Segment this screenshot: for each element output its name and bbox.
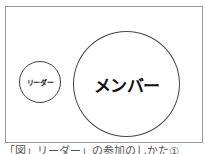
figure-caption: 「図」リーダー」の参加のしかた① xyxy=(4,146,179,154)
leader-label: リーダー xyxy=(27,77,54,87)
member-label: メンバー xyxy=(94,72,160,97)
member-circle: メンバー xyxy=(73,31,180,137)
leader-circle: リーダー xyxy=(19,61,61,103)
